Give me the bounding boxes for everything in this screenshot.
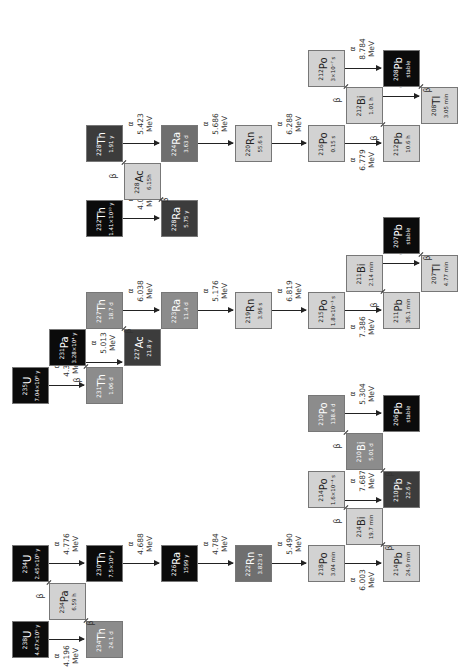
mass-number: 214: [354, 526, 361, 537]
element-symbol: Rn: [244, 551, 255, 564]
alpha-decay-arrow: [49, 385, 84, 386]
decay-energy: 4.776: [63, 527, 71, 561]
nuclide-symbol: 212Pb: [392, 132, 403, 156]
nuclide-symbol: 207Tl: [430, 263, 441, 283]
element-symbol: Pb: [392, 552, 403, 564]
mass-number: 223: [169, 311, 176, 322]
nuclide-symbol: 219Rn: [244, 298, 255, 323]
alpha-decay-arrow: [49, 563, 84, 564]
alpha-symbol: α: [202, 527, 210, 561]
nuclide-box-po215: 215Po1.8×10⁻³ s: [308, 292, 345, 329]
half-life: 5.01 d: [368, 443, 374, 461]
alpha-symbol: α: [127, 107, 135, 141]
nuclide-box-po210: 210Po138.4 d: [308, 395, 345, 432]
beta-decay-label: β: [334, 97, 342, 102]
nuclide-symbol: 234Pa: [58, 590, 69, 613]
beta-decay-label: β: [74, 377, 82, 382]
mass-number: 210: [354, 451, 361, 462]
alpha-decay-label: α6.038MeV: [127, 274, 157, 308]
alpha-symbol: α: [53, 639, 61, 668]
element-symbol: Ra: [170, 551, 181, 564]
decay-energy: 7.386: [359, 310, 367, 344]
energy-unit: MeV: [221, 107, 229, 141]
half-life: 5.75 y: [183, 210, 189, 227]
alpha-decay-arrow: [198, 310, 233, 311]
nuclide-symbol: 228Ra: [170, 206, 181, 230]
alpha-decay-arrow: [345, 500, 381, 501]
half-life: 1.8×10⁻³ s: [330, 295, 336, 325]
mass-number: 232: [94, 219, 101, 230]
mass-number: 206: [391, 414, 398, 425]
half-life: 3.823 d: [257, 553, 263, 574]
alpha-decay-label: α4.776MeV: [53, 527, 83, 561]
mass-number: 224: [169, 144, 176, 155]
beta-decay-label: β: [371, 302, 379, 307]
beta-decay-label: β: [371, 135, 379, 140]
element-symbol: Pa: [58, 336, 69, 348]
mass-number: 215: [316, 311, 323, 322]
half-life: 22.6 y: [405, 481, 411, 498]
nuclide-label: 210Po138.4 d: [308, 395, 345, 432]
element-symbol: Pa: [58, 590, 69, 602]
nuclide-label: 228Ra5.75 y: [161, 200, 198, 237]
nuclide-box-po212: 212Po3×10⁻⁷ s: [308, 50, 345, 87]
half-life: 1.91 y: [108, 135, 114, 152]
energy-unit: MeV: [295, 527, 303, 561]
beta-decay-label: β: [87, 620, 95, 625]
nuclide-label: 208Pbstable: [383, 50, 420, 87]
nuclide-label: 214Bi19.7 min: [346, 508, 383, 545]
alpha-decay-arrow: [123, 143, 159, 144]
alpha-symbol: α: [53, 527, 61, 561]
alpha-decay-label: α6.288MeV: [276, 107, 306, 141]
nuclide-label: 230Th7.5×10⁴ y: [86, 545, 123, 582]
element-symbol: U: [21, 554, 32, 561]
nuclide-symbol: 210Bi: [355, 441, 366, 462]
element-symbol: Pb: [392, 478, 403, 490]
element-symbol: Pb: [392, 132, 403, 144]
half-life: 3.28×10⁴ y: [71, 332, 77, 363]
element-symbol: Po: [317, 402, 328, 414]
energy-unit: MeV: [368, 32, 376, 66]
energy-unit: MeV: [221, 274, 229, 308]
element-symbol: Th: [95, 132, 106, 144]
energy-unit: MeV: [146, 274, 154, 308]
mass-number: 210: [391, 490, 398, 501]
element-symbol: Th: [95, 552, 106, 564]
nuclide-label: 222Rn3.823 d: [235, 545, 272, 582]
mass-number: 216: [316, 144, 323, 155]
nuclide-label: 207Pbstable: [383, 217, 420, 254]
nuclide-box-bi210: 210Bi5.01 d: [346, 433, 383, 470]
mass-number: 235: [20, 383, 27, 394]
mass-number: 234: [20, 561, 27, 572]
half-life: 1.6×10⁻⁴ s: [330, 474, 336, 504]
decay-energy: 6.288: [286, 107, 294, 141]
alpha-decay-arrow: [383, 96, 419, 97]
half-life: 19.7 min: [368, 514, 374, 538]
energy-unit: MeV: [72, 639, 80, 668]
mass-number: 211: [391, 311, 398, 322]
nuclide-symbol: 214Bi: [355, 516, 366, 537]
mass-number: 208: [391, 69, 398, 80]
alpha-decay-label: α4.688MeV: [127, 527, 157, 561]
energy-unit: MeV: [295, 274, 303, 308]
nuclide-symbol: 212Bi: [355, 95, 366, 116]
alpha-decay-label: α5.686MeV: [202, 107, 232, 141]
decay-energy: 5.423: [137, 107, 145, 141]
nuclide-label: 227Ac21.8 y: [124, 329, 161, 366]
mass-number: 231: [57, 348, 64, 359]
half-life: stable: [405, 227, 411, 244]
half-life: 7.04×10⁸ y: [34, 370, 40, 401]
half-life: 1.06 d: [108, 377, 114, 395]
nuclide-label: 212Bi1.01 h: [346, 87, 383, 124]
nuclide-symbol: 208Pb: [392, 57, 403, 81]
element-symbol: Tl: [430, 95, 441, 104]
element-symbol: Ra: [170, 131, 181, 144]
energy-unit: MeV: [109, 326, 117, 360]
nuclide-symbol: 230Th: [95, 552, 106, 576]
mass-number: 228: [132, 182, 139, 193]
nuclide-box-pb212: 212Pb10.6 h: [383, 125, 420, 162]
nuclide-symbol: 224Ra: [170, 131, 181, 155]
nuclide-box-pa234: 234Pa6.59 h: [49, 583, 86, 620]
nuclide-box-po218: 218Po3.04 min: [308, 545, 345, 582]
nuclide-label: 212Po3×10⁻⁷ s: [308, 50, 345, 87]
